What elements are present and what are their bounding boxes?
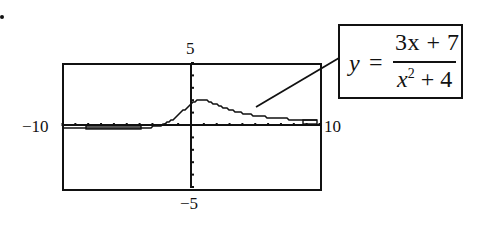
equation-label-box: y = 3x + 7 x2 + 4 (338, 24, 463, 99)
fraction-bar (393, 61, 456, 63)
equation-numerator: 3x + 7 (395, 29, 460, 56)
equation-lhs: y (349, 50, 360, 77)
equation-equals: = (369, 49, 383, 76)
curve-band-right (303, 120, 317, 124)
equation-denominator: x2 + 4 (397, 66, 452, 93)
label-leader-line (256, 58, 339, 107)
